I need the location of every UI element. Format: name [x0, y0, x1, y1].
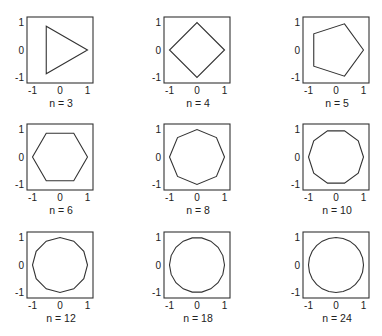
y-tick-label: -1	[291, 72, 300, 83]
polygon-n-18	[170, 238, 225, 292]
y-tick-label: 0	[18, 152, 24, 163]
polygon-n-10	[309, 131, 364, 183]
panel-n-10: -10110-1n = 10	[291, 124, 369, 216]
panel-n-5: -10110-1n = 5	[291, 17, 369, 109]
y-tick-label: 1	[155, 232, 161, 243]
y-tick-label: 0	[18, 45, 24, 56]
x-tick-label: -1	[28, 192, 37, 203]
y-tick-label: -1	[152, 287, 161, 298]
polygon-n-12	[33, 238, 88, 293]
panel-label: n = 6	[49, 204, 73, 216]
y-tick-label: 1	[294, 17, 300, 28]
polygon-n-6	[33, 133, 88, 181]
polygon-n-4	[170, 23, 225, 78]
x-tick-label: 0	[57, 300, 63, 311]
panel-n-3: -10110-1n = 3	[15, 17, 93, 109]
y-tick-label: 1	[155, 124, 161, 135]
x-tick-label: 1	[85, 85, 91, 96]
y-tick-label: 0	[155, 45, 161, 56]
axes-box	[164, 232, 230, 298]
y-tick-label: -1	[291, 287, 300, 298]
x-tick-label: 1	[361, 192, 367, 203]
axes-box	[164, 124, 230, 190]
y-tick-label: 0	[294, 45, 300, 56]
x-tick-label: 0	[194, 85, 200, 96]
panel-label: n = 8	[186, 204, 210, 216]
x-tick-label: 0	[333, 85, 339, 96]
x-tick-label: 0	[333, 300, 339, 311]
y-tick-label: 1	[294, 232, 300, 243]
y-tick-label: 1	[18, 17, 24, 28]
panel-n-8: -10110-1n = 8	[152, 124, 230, 216]
panel-n-6: -10110-1n = 6	[15, 124, 93, 216]
panel-label: n = 10	[322, 204, 352, 216]
x-tick-label: -1	[165, 192, 174, 203]
x-tick-label: -1	[304, 300, 313, 311]
panel-label: n = 5	[325, 97, 349, 109]
x-tick-label: 1	[222, 300, 228, 311]
x-tick-label: 0	[57, 85, 63, 96]
axes-box	[303, 124, 369, 190]
x-tick-label: 1	[361, 300, 367, 311]
y-tick-label: -1	[291, 179, 300, 190]
panel-label: n = 18	[183, 312, 213, 324]
panel-n-24: -10110-1n = 24	[291, 232, 369, 324]
axes-box	[164, 17, 230, 83]
x-tick-label: -1	[28, 300, 37, 311]
x-tick-label: 0	[194, 300, 200, 311]
x-tick-label: -1	[304, 85, 313, 96]
y-tick-label: -1	[15, 72, 24, 83]
panel-label: n = 24	[322, 312, 352, 324]
axes-box	[303, 232, 369, 298]
polygon-n-5	[314, 24, 364, 76]
panel-n-18: -10110-1n = 18	[152, 232, 230, 324]
x-tick-label: 0	[57, 192, 63, 203]
x-tick-label: 1	[85, 300, 91, 311]
x-tick-label: 1	[222, 85, 228, 96]
x-tick-label: 0	[194, 192, 200, 203]
x-tick-label: -1	[28, 85, 37, 96]
x-tick-label: 0	[333, 192, 339, 203]
x-tick-label: -1	[165, 85, 174, 96]
y-tick-label: 1	[294, 124, 300, 135]
y-tick-label: -1	[152, 179, 161, 190]
x-tick-label: 1	[222, 192, 228, 203]
axes-box	[27, 17, 93, 83]
y-tick-label: 0	[294, 152, 300, 163]
y-tick-label: 1	[155, 17, 161, 28]
panel-label: n = 4	[186, 97, 210, 109]
panel-n-12: -10110-1n = 12	[15, 232, 93, 324]
y-tick-label: 0	[294, 260, 300, 271]
y-tick-label: -1	[15, 179, 24, 190]
polygon-n-3	[46, 26, 87, 74]
x-tick-label: -1	[304, 192, 313, 203]
polygon-figure: -10110-1n = 3-10110-1n = 4-10110-1n = 5-…	[0, 0, 382, 336]
y-tick-label: 1	[18, 232, 24, 243]
polygon-n-8	[170, 130, 225, 185]
x-tick-label: 1	[361, 85, 367, 96]
y-tick-label: 0	[155, 152, 161, 163]
panel-label: n = 3	[49, 97, 73, 109]
axes-box	[27, 124, 93, 190]
x-tick-label: -1	[165, 300, 174, 311]
y-tick-label: 1	[18, 124, 24, 135]
y-tick-label: -1	[15, 287, 24, 298]
y-tick-label: 0	[155, 260, 161, 271]
panel-label: n = 12	[46, 312, 76, 324]
x-tick-label: 1	[85, 192, 91, 203]
panel-n-4: -10110-1n = 4	[152, 17, 230, 109]
axes-box	[27, 232, 93, 298]
y-tick-label: 0	[18, 260, 24, 271]
polygon-n-24	[309, 238, 364, 293]
y-tick-label: -1	[152, 72, 161, 83]
